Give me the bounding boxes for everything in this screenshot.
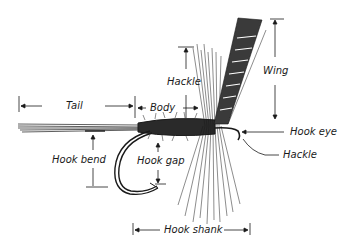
label-body: Body bbox=[150, 103, 175, 113]
label-tail: Tail bbox=[66, 101, 83, 111]
wing-feathers bbox=[214, 18, 266, 124]
label-hook-gap: Hook gap bbox=[137, 156, 185, 166]
tail-fibers bbox=[18, 124, 140, 132]
label-hook-shank: Hook shank bbox=[164, 225, 223, 235]
fly-anatomy-diagram: Tail Body Hackle Wing Hook eye Hackle Ho… bbox=[0, 0, 346, 248]
label-hook-bend: Hook bend bbox=[52, 155, 106, 165]
label-hackle-bottom: Hackle bbox=[283, 150, 317, 160]
label-wing: Wing bbox=[263, 66, 288, 76]
label-hook-eye: Hook eye bbox=[290, 127, 337, 137]
label-hackle-top: Hackle bbox=[167, 77, 201, 87]
